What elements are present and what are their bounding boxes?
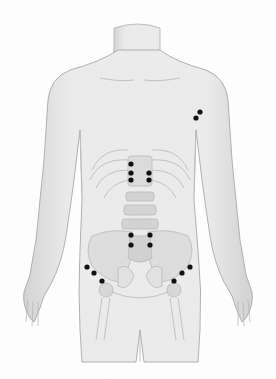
marker-dot-spine-upper	[146, 177, 151, 182]
texture-overlay	[0, 0, 276, 379]
marker-dot-hip-right	[91, 270, 96, 275]
marker-dot-spine-lower	[147, 232, 152, 237]
marker-dot-chest-left	[197, 109, 202, 114]
marker-dot-spine-lower	[128, 232, 133, 237]
marker-dot-spine-lower	[128, 242, 133, 247]
marker-dot-hip-right	[84, 264, 89, 269]
anatomy-figure	[0, 0, 276, 379]
marker-dot-hip-left	[171, 278, 176, 283]
marker-dot-hip-left	[179, 270, 184, 275]
marker-dot-spine-upper	[146, 170, 151, 175]
marker-dot-chest-left	[193, 115, 198, 120]
marker-dot-hip-right	[99, 278, 104, 283]
marker-dot-spine-upper	[128, 177, 133, 182]
marker-dot-hip-left	[187, 264, 192, 269]
marker-dot-spine-upper	[128, 161, 133, 166]
marker-dot-spine-upper	[128, 170, 133, 175]
marker-dot-spine-lower	[147, 242, 152, 247]
